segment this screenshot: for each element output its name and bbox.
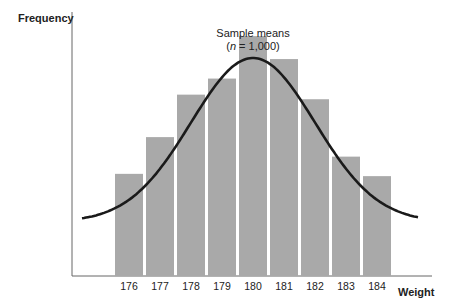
bar-180 [239, 36, 267, 276]
bar-177 [146, 137, 174, 276]
x-tick-labels: 176177178179180181182183184 [120, 280, 386, 292]
x-axis-label: Weight [398, 286, 435, 298]
x-tick-181: 181 [275, 280, 293, 292]
x-tick-176: 176 [120, 280, 138, 292]
x-tick-182: 182 [306, 280, 324, 292]
bar-179 [208, 79, 236, 276]
annotation-line1: Sample means [216, 27, 290, 39]
annotation-line2: (n = 1,000) [226, 40, 280, 52]
x-tick-180: 180 [244, 280, 262, 292]
bar-176 [115, 174, 143, 276]
x-tick-179: 179 [213, 280, 231, 292]
y-axis-label: Frequency [18, 12, 75, 24]
x-tick-184: 184 [368, 280, 386, 292]
x-tick-178: 178 [182, 280, 200, 292]
x-tick-183: 183 [337, 280, 355, 292]
bar-182 [301, 99, 329, 276]
bars [115, 36, 391, 276]
x-tick-177: 177 [151, 280, 169, 292]
bar-183 [332, 157, 360, 276]
histogram-chart: 176177178179180181182183184 Frequency We… [0, 0, 449, 308]
